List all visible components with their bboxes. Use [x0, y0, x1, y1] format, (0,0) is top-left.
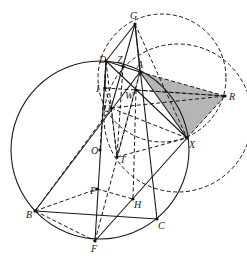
point-W	[134, 88, 137, 91]
label-D: D	[98, 54, 107, 65]
label-C: C	[158, 220, 165, 231]
label-B: B	[26, 209, 32, 220]
point-R	[223, 94, 226, 97]
geometry-figure: GDZAIWRUXOTPHBCF	[0, 0, 247, 259]
segment-GC	[135, 24, 157, 219]
label-U: U	[103, 103, 111, 114]
label-F: F	[90, 243, 98, 254]
dashed-segment-WH	[133, 90, 136, 199]
circles	[11, 14, 247, 239]
label-O: O	[91, 145, 98, 156]
label-P: P	[89, 185, 96, 196]
label-A: A	[136, 59, 144, 70]
label-I: I	[95, 83, 100, 94]
label-T: T	[120, 154, 127, 165]
point-T	[115, 155, 118, 158]
point-A	[138, 70, 141, 73]
points	[33, 22, 226, 242]
point-O	[98, 148, 101, 151]
dashed-segment-PH	[97, 189, 133, 199]
point-B	[33, 209, 36, 212]
label-Z: Z	[117, 54, 123, 65]
dashed-segments	[35, 24, 225, 241]
label-H: H	[133, 199, 142, 210]
point-G	[133, 22, 136, 25]
label-G: G	[130, 10, 137, 21]
label-X: X	[188, 139, 196, 150]
dashed-segment-BP	[35, 189, 97, 211]
dashed-segment-BF	[35, 211, 95, 241]
label-R: R	[228, 91, 235, 102]
solid-segments	[35, 24, 187, 241]
dashed-segment-TX	[117, 138, 187, 157]
point-I	[103, 86, 106, 89]
